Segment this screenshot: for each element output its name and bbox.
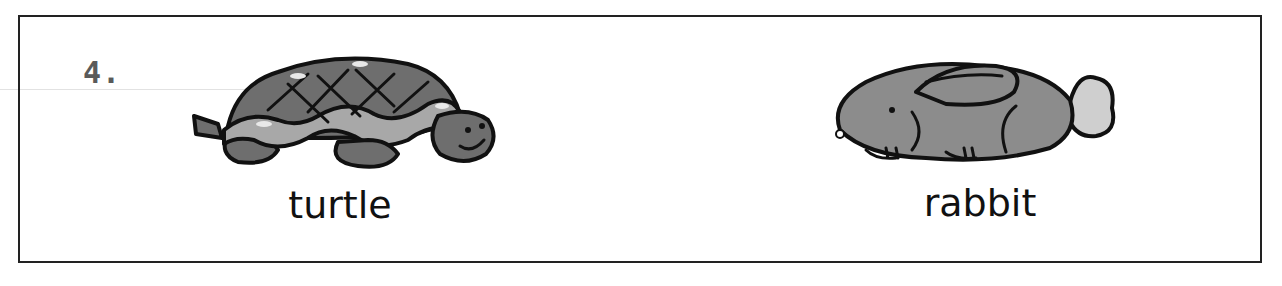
- rabbit-label: rabbit: [870, 181, 1090, 225]
- rabbit-icon: [826, 52, 1118, 164]
- exercise-number: 4.: [83, 55, 121, 90]
- turtle-icon: [188, 54, 500, 172]
- turtle-label: turtle: [240, 183, 440, 227]
